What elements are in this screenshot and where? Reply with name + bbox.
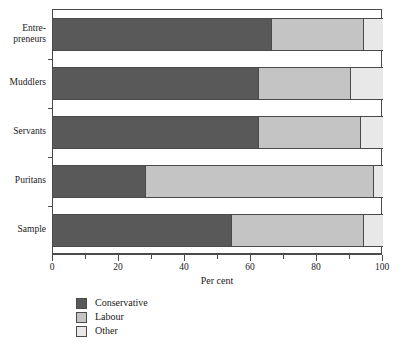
x-axis-minor-tick [349, 255, 350, 259]
x-axis-minor-tick [151, 255, 152, 259]
bar-row[interactable] [53, 214, 381, 247]
bar-row[interactable] [53, 18, 381, 51]
bar-row[interactable] [53, 67, 381, 100]
y-axis-label: Entre- preneurs [13, 23, 46, 45]
x-axis-major-tick [250, 255, 251, 261]
x-axis-tick-label: 100 [375, 262, 389, 273]
bar-segment-labour[interactable] [258, 67, 350, 100]
x-axis-title: Per cent [52, 275, 382, 286]
bar-segment-conservative[interactable] [53, 214, 231, 247]
x-axis-major-tick [382, 255, 383, 261]
bar-segment-conservative[interactable] [53, 18, 271, 51]
x-axis-major-tick [118, 255, 119, 261]
x-axis-minor-tick [85, 255, 86, 259]
bar-row[interactable] [53, 116, 381, 149]
legend-swatch-other [76, 326, 87, 337]
x-axis-tick-label: 0 [50, 262, 55, 273]
legend-item[interactable]: Conservative [76, 296, 148, 310]
y-axis-tick [48, 108, 53, 109]
bar-segment-other[interactable] [363, 214, 383, 247]
bar-segment-labour[interactable] [231, 214, 363, 247]
x-axis-tick-label: 40 [179, 262, 189, 273]
y-axis-tick [48, 157, 53, 158]
x-axis-tick-label: 80 [311, 262, 321, 273]
chart-legend: ConservativeLabourOther [76, 296, 148, 338]
x-axis-major-tick [316, 255, 317, 261]
bar-segment-labour[interactable] [271, 18, 363, 51]
bar-track [53, 116, 381, 149]
y-axis-tick [48, 59, 53, 60]
legend-label: Labour [95, 311, 124, 323]
bar-segment-conservative[interactable] [53, 116, 258, 149]
bar-segment-other[interactable] [373, 165, 383, 198]
stacked-bar-chart-figure: Entre- preneursMuddlersServantsPuritansS… [0, 0, 401, 343]
legend-label: Other [95, 325, 118, 337]
bar-segment-other[interactable] [360, 116, 383, 149]
legend-item[interactable]: Other [76, 324, 148, 338]
bar-segment-labour[interactable] [145, 165, 373, 198]
x-axis-tick-label: 20 [113, 262, 123, 273]
bar-segment-conservative[interactable] [53, 67, 258, 100]
x-axis-minor-tick [217, 255, 218, 259]
legend-item[interactable]: Labour [76, 310, 148, 324]
bar-row[interactable] [53, 165, 381, 198]
x-axis-minor-tick [283, 255, 284, 259]
bar-track [53, 214, 381, 247]
y-axis-label: Muddlers [10, 77, 46, 88]
bar-track [53, 165, 381, 198]
bar-segment-other[interactable] [363, 18, 383, 51]
bar-track [53, 18, 381, 51]
legend-label: Conservative [95, 297, 148, 309]
y-axis-label: Puritans [15, 175, 46, 186]
x-axis-tick-label: 60 [245, 262, 255, 273]
y-axis-label: Servants [13, 126, 46, 137]
legend-swatch-labour [76, 312, 87, 323]
legend-swatch-conservative [76, 298, 87, 309]
bar-track [53, 67, 381, 100]
y-axis-tick [48, 206, 53, 207]
bar-segment-other[interactable] [350, 67, 383, 100]
plot-area [52, 9, 382, 254]
y-axis-label: Sample [18, 224, 47, 235]
x-axis-major-tick [52, 255, 53, 261]
bar-segment-labour[interactable] [258, 116, 360, 149]
bar-segment-conservative[interactable] [53, 165, 145, 198]
x-axis-major-tick [184, 255, 185, 261]
